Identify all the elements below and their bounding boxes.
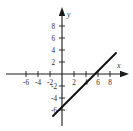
axes-group [6, 7, 129, 126]
y-tick-label-6: 6 [51, 35, 55, 43]
x-axis-arrowhead [120, 71, 129, 77]
y-tick-label-8: 8 [51, 23, 55, 31]
x-tick-label-6: 6 [96, 79, 100, 87]
x-axis-label: x [116, 61, 121, 70]
x-tick-label-neg6: -6 [23, 79, 29, 87]
y-tick-label-neg2: -2 [51, 83, 57, 91]
y-axis-tick-labels: 8 6 4 2 -2 -4 -6 [51, 23, 57, 115]
x-tick-label-neg4: -4 [35, 79, 41, 87]
chart-canvas: -6 -4 -2 2 4 6 8 8 6 4 2 -2 -4 -6 y x [0, 0, 133, 131]
y-axis-label: y [66, 10, 71, 19]
x-tick-label-2: 2 [72, 79, 76, 87]
coordinate-plane-figure: -6 -4 -2 2 4 6 8 8 6 4 2 -2 -4 -6 y x [0, 0, 133, 131]
x-axis-tick-labels: -6 -4 -2 2 4 6 8 [23, 79, 112, 87]
y-tick-label-neg4: -4 [51, 95, 57, 103]
y-axis-arrowhead [59, 7, 65, 16]
y-tick-label-2: 2 [51, 59, 55, 67]
x-tick-label-8: 8 [108, 79, 112, 87]
y-tick-label-4: 4 [51, 47, 55, 55]
axis-name-labels: y x [66, 10, 121, 70]
